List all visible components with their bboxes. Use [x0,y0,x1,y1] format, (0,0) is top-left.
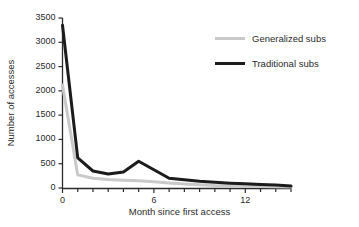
y-tick-label: 1500 [35,109,55,119]
x-axis-title: Month since first access [0,206,359,217]
y-axis-title: Number of accesses [5,59,16,146]
legend-label: Traditional subs [252,58,319,69]
y-tick-label: 500 [40,158,55,168]
y-tick-label: 2000 [35,85,55,95]
y-tick-label: 1000 [35,133,55,143]
x-tick-label: 0 [43,195,83,205]
x-tick-label: 6 [134,195,174,205]
legend-label: Generalized subs [252,33,326,44]
y-tick-label: 3500 [35,12,55,22]
legend-swatch [215,62,245,65]
legend-swatch [215,37,245,40]
x-tick-label: 12 [225,195,265,205]
y-tick-label: 2500 [35,61,55,71]
chart-figure: Number of accesses 050010001500200025003… [0,0,359,227]
y-tick-label: 0 [50,182,55,192]
series-line [63,25,292,186]
legend-item: Traditional subs [215,58,319,69]
y-tick-label: 3000 [35,36,55,46]
legend-item: Generalized subs [215,33,326,44]
chart-series-layer [63,25,292,187]
